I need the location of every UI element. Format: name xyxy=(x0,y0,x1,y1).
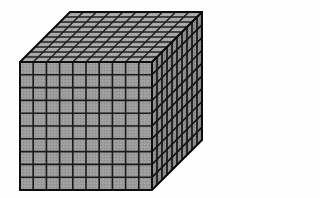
figure-canvas: Base-ten block thousand cube Isometric d… xyxy=(0,0,212,198)
thousand-cube-illustration: Base-ten block thousand cube Isometric d… xyxy=(0,0,212,198)
front-face xyxy=(20,62,152,190)
